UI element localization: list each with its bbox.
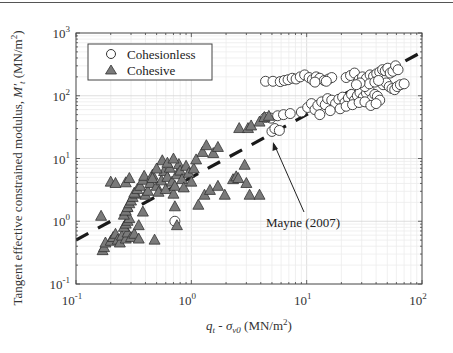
- data-point-circle: [351, 80, 361, 90]
- x-tick-label: 10-1: [62, 291, 83, 308]
- data-point-circle: [310, 77, 320, 87]
- data-point-triangle: [149, 234, 160, 244]
- annotation-label: Mayne (2007): [266, 215, 340, 230]
- x-axis-title: qt - σv0 (MN/m2): [206, 317, 292, 335]
- circle-marker-icon: [107, 50, 116, 59]
- scatter-chart: 10-1100101102 10-1100101102103 Cohesionl…: [0, 0, 453, 353]
- y-tick-label: 10-1: [50, 275, 71, 292]
- data-point-circle: [285, 109, 295, 119]
- legend-label-cohesionless: Cohesionless: [127, 47, 196, 62]
- y-tick-label: 100: [53, 212, 71, 229]
- data-point-triangle: [201, 140, 212, 150]
- data-point-triangle: [96, 210, 107, 220]
- x-tick-label: 101: [294, 291, 312, 308]
- data-point-triangle: [212, 180, 223, 190]
- y-tick-label: 102: [53, 87, 71, 104]
- y-tick-label: 101: [53, 150, 71, 167]
- data-point-circle: [371, 99, 381, 109]
- data-point-triangle: [254, 189, 265, 199]
- data-point-circle: [325, 106, 335, 116]
- y-axis-title: Tangent effective constrained modulus, M…: [9, 30, 27, 305]
- x-tick-labels: 10-1100101102: [62, 291, 427, 308]
- y-tick-labels: 10-1100101102103: [50, 24, 71, 292]
- data-point-triangle: [137, 206, 148, 216]
- data-point-triangle: [244, 189, 255, 199]
- data-point-triangle: [168, 153, 179, 163]
- data-point-circle: [393, 65, 403, 75]
- legend: Cohesionless Cohesive: [88, 44, 212, 80]
- data-point-circle: [374, 75, 384, 85]
- cohesive-series: [96, 110, 275, 254]
- mayne-annotation: Mayne (2007): [266, 142, 340, 230]
- legend-label-cohesive: Cohesive: [127, 63, 176, 78]
- data-point-triangle: [212, 141, 223, 151]
- data-point-triangle: [193, 199, 204, 209]
- data-point-circle: [315, 110, 325, 120]
- data-point-circle: [399, 79, 409, 89]
- y-tick-label: 103: [53, 24, 71, 41]
- data-point-circle: [321, 76, 331, 86]
- x-tick-label: 100: [179, 291, 197, 308]
- arrow-head-icon: [273, 142, 279, 151]
- data-point-circle: [274, 125, 284, 135]
- x-tick-label: 102: [409, 291, 427, 308]
